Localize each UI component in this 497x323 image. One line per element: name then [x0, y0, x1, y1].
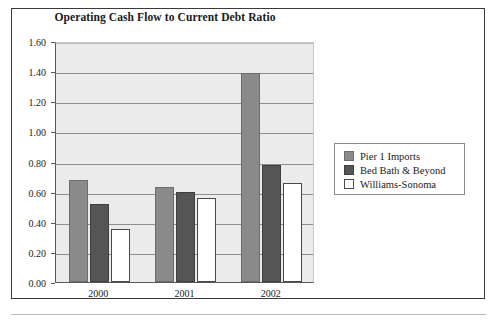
chart-title: Operating Cash Flow to Current Debt Rati… — [0, 11, 330, 23]
gridline — [56, 43, 313, 44]
y-axis-tick-label: 1.60 — [6, 37, 46, 48]
x-axis-tick-label: 2002 — [231, 288, 311, 299]
y-axis-tick-mark — [51, 132, 55, 133]
y-axis-tick-label: 1.00 — [6, 127, 46, 138]
bar-bed-bath-beyond-2000 — [90, 204, 109, 282]
y-axis-tick-mark — [51, 42, 55, 43]
gridline — [56, 103, 313, 104]
y-axis-tick-mark — [51, 193, 55, 194]
legend-item: Pier 1 Imports — [344, 149, 464, 163]
legend-label: Pier 1 Imports — [360, 151, 420, 162]
x-axis-tick-label: 2000 — [58, 288, 138, 299]
x-axis-tick-label: 2001 — [145, 288, 225, 299]
y-axis-tick-mark — [51, 223, 55, 224]
legend-item: Williams-Sonoma — [344, 177, 464, 191]
y-axis-tick-label: 0.20 — [6, 247, 46, 258]
bar-pier-1-imports-2002 — [241, 73, 260, 282]
plot-area — [55, 42, 314, 283]
bar-bed-bath-beyond-2002 — [262, 165, 281, 282]
legend-swatch-icon — [344, 165, 354, 175]
y-axis-tick-mark — [51, 283, 55, 284]
bar-williams-sonoma-2002 — [283, 183, 302, 282]
y-axis-tick-label: 1.40 — [6, 67, 46, 78]
legend-label: Bed Bath & Beyond — [360, 165, 445, 176]
y-axis-tick-label: 0.80 — [6, 157, 46, 168]
y-axis-tick-label: 0.40 — [6, 217, 46, 228]
plot-region — [55, 42, 314, 283]
bar-pier-1-imports-2001 — [155, 187, 174, 282]
gridline — [56, 73, 313, 74]
bar-bed-bath-beyond-2001 — [176, 192, 195, 282]
chart-legend: Pier 1 ImportsBed Bath & BeyondWilliams-… — [334, 143, 465, 195]
bar-williams-sonoma-2000 — [111, 229, 130, 282]
y-axis-tick-mark — [51, 72, 55, 73]
footer-rule — [11, 314, 486, 315]
legend-swatch-icon — [344, 151, 354, 161]
y-axis-tick-mark — [51, 253, 55, 254]
bar-pier-1-imports-2000 — [69, 180, 88, 282]
y-axis-tick-mark — [51, 102, 55, 103]
y-axis-tick-mark — [51, 163, 55, 164]
y-axis-tick-label: 0.00 — [6, 278, 46, 289]
legend-label: Williams-Sonoma — [360, 179, 436, 190]
gridline — [56, 133, 313, 134]
y-axis-tick-label: 1.20 — [6, 97, 46, 108]
legend-swatch-icon — [344, 179, 354, 189]
legend-item: Bed Bath & Beyond — [344, 163, 464, 177]
bar-williams-sonoma-2001 — [197, 198, 216, 282]
y-axis-tick-label: 0.60 — [6, 187, 46, 198]
